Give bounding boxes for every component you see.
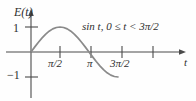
y-tick-label-one: 1 xyxy=(13,22,19,34)
x-tick-label-pi: π xyxy=(87,58,93,69)
curve-annotation-label: sin t, 0 ≤ t < 3π/2 xyxy=(82,21,159,32)
y-axis-label: E(t) xyxy=(14,6,33,18)
x-tick-label-three-half-pi: 3π/2 xyxy=(110,58,130,69)
x-axis-label: t xyxy=(184,57,187,68)
y-axis xyxy=(28,9,34,98)
y-tick-label-negative-one: −1 xyxy=(7,69,20,81)
x-tick-label-half-pi: π/2 xyxy=(48,58,62,69)
sine-pulse-figure: E(t) t 1 −1 π/2 π 3π/2 sin t, 0 ≤ t < 3π… xyxy=(0,0,196,101)
